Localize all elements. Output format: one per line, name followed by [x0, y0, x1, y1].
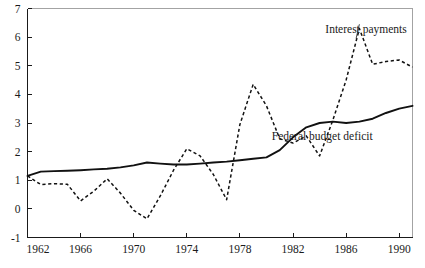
x-tick-label: 1986 — [335, 243, 358, 255]
series-annotations: Interest paymentsFederal budget deficit — [272, 23, 408, 143]
y-tick-label: 7 — [15, 3, 21, 15]
x-axis-ticks: 19621966197019741978198219861990 — [27, 233, 411, 255]
data-series-group — [28, 29, 413, 219]
y-tick-label: 0 — [15, 203, 21, 215]
series-line-interest-payments — [28, 29, 413, 219]
x-tick-label: 1990 — [388, 243, 411, 255]
y-tick-label: -1 — [11, 232, 21, 244]
x-tick-label: 1966 — [69, 243, 92, 255]
chart-container: -101234567 19621966197019741978198219861… — [0, 0, 425, 268]
x-tick-label: 1970 — [122, 243, 145, 255]
y-axis-ticks: -101234567 — [11, 3, 32, 244]
series-annotation-federal-budget-deficit: Federal budget deficit — [272, 130, 374, 143]
x-tick-label: 1974 — [175, 243, 198, 255]
series-annotation-interest-payments: Interest payments — [325, 23, 407, 36]
y-tick-label: 2 — [15, 146, 21, 158]
x-tick-label: 1978 — [228, 243, 251, 255]
x-tick-label: 1982 — [282, 243, 305, 255]
y-tick-label: 4 — [15, 88, 21, 100]
y-tick-label: 1 — [15, 174, 21, 186]
chart-plot: -101234567 19621966197019741978198219861… — [0, 0, 425, 268]
y-tick-label: 5 — [15, 60, 21, 72]
x-tick-label: 1962 — [27, 243, 50, 255]
y-tick-label: 6 — [15, 31, 21, 43]
y-tick-label: 3 — [15, 117, 21, 129]
